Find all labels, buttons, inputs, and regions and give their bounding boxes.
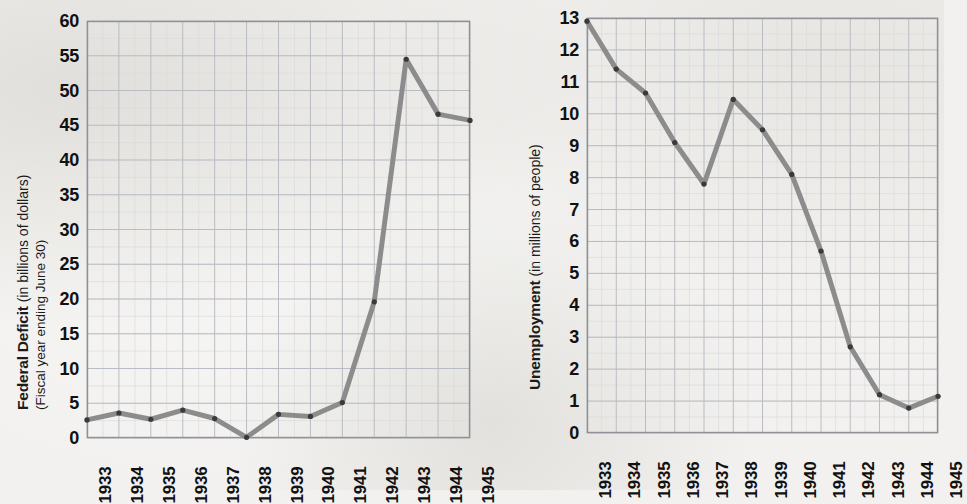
unemployment-xtick-1941: 1941 — [830, 462, 850, 499]
federal-deficit-ytick-10: 10 — [60, 358, 79, 379]
federal-deficit-svg — [87, 21, 470, 438]
unemployment-ytick-2: 2 — [569, 359, 579, 380]
unemployment-x-axis: 1933193419351936193719381939194019411942… — [587, 443, 938, 491]
unemployment-xtick-1934: 1934 — [625, 462, 645, 499]
federal-deficit-ytick-40: 40 — [60, 150, 79, 171]
unemployment-xtick-1942: 1942 — [859, 462, 879, 499]
federal-deficit-y-axis: 051015202530354045505560 — [41, 21, 79, 438]
unemployment-xtick-1940: 1940 — [800, 462, 820, 499]
federal-deficit-xtick-1942: 1942 — [383, 467, 403, 504]
unemployment-xtick-1939: 1939 — [771, 462, 791, 499]
federal-deficit-ytick-5: 5 — [69, 393, 79, 414]
unemployment-ytick-3: 3 — [569, 327, 579, 348]
federal-deficit-ytick-60: 60 — [60, 11, 79, 32]
unemployment-xtick-1933: 1933 — [596, 462, 616, 499]
unemployment-ytick-5: 5 — [569, 263, 579, 284]
unemployment-ytick-6: 6 — [569, 231, 579, 252]
federal-deficit-xtick-1943: 1943 — [415, 467, 435, 504]
federal-deficit-xtick-1944: 1944 — [447, 467, 467, 504]
federal-deficit-plot-area — [87, 21, 470, 438]
unemployment-ytick-1: 1 — [569, 391, 579, 412]
unemployment-ytick-8: 8 — [569, 167, 579, 188]
federal-deficit-xtick-1939: 1939 — [287, 467, 307, 504]
federal-deficit-xtick-1935: 1935 — [159, 467, 179, 504]
unemployment-chart: Unemployment (in millions of people) 012… — [480, 0, 944, 490]
federal-deficit-ytick-50: 50 — [60, 80, 79, 101]
federal-deficit-xtick-1940: 1940 — [319, 467, 339, 504]
federal-deficit-xtick-1937: 1937 — [223, 467, 243, 504]
unemployment-svg — [587, 18, 938, 433]
federal-deficit-ytick-15: 15 — [60, 323, 79, 344]
federal-deficit-ytick-25: 25 — [60, 254, 79, 275]
federal-deficit-ytick-30: 30 — [60, 219, 79, 240]
federal-deficit-ytick-20: 20 — [60, 289, 79, 310]
federal-deficit-xtick-1936: 1936 — [191, 467, 211, 504]
unemployment-xtick-1937: 1937 — [713, 462, 733, 499]
federal-deficit-ytick-45: 45 — [60, 115, 79, 136]
federal-deficit-axis-title-bold: Federal Deficit — [14, 306, 31, 410]
federal-deficit-axis-title-regular: (in billions of dollars) — [15, 175, 31, 307]
unemployment-plot-area — [587, 18, 938, 433]
federal-deficit-ytick-35: 35 — [60, 184, 79, 205]
federal-deficit-ytick-55: 55 — [60, 45, 79, 66]
unemployment-ytick-11: 11 — [561, 71, 579, 92]
unemployment-ytick-0: 0 — [569, 423, 579, 444]
unemployment-y-axis: 012345678910111213 — [541, 18, 579, 433]
unemployment-xtick-1935: 1935 — [654, 462, 674, 499]
federal-deficit-x-axis: 1933193419351936193719381939194019411942… — [87, 448, 470, 496]
federal-deficit-xtick-1933: 1933 — [96, 467, 116, 504]
unemployment-ytick-10: 10 — [560, 103, 579, 124]
unemployment-xtick-1936: 1936 — [683, 462, 703, 499]
federal-deficit-xtick-1938: 1938 — [255, 467, 275, 504]
unemployment-ytick-4: 4 — [569, 295, 579, 316]
unemployment-xtick-1944: 1944 — [917, 462, 937, 499]
unemployment-xtick-1938: 1938 — [742, 462, 762, 499]
federal-deficit-chart: Federal Deficit (in billions of dollars)… — [0, 0, 480, 490]
unemployment-xtick-1945: 1945 — [947, 462, 967, 499]
unemployment-ytick-7: 7 — [569, 199, 579, 220]
federal-deficit-ytick-0: 0 — [69, 428, 79, 449]
federal-deficit-xtick-1934: 1934 — [127, 467, 147, 504]
unemployment-ytick-9: 9 — [569, 135, 579, 156]
federal-deficit-xtick-1941: 1941 — [351, 467, 371, 504]
unemployment-ytick-13: 13 — [560, 8, 579, 29]
unemployment-ytick-12: 12 — [560, 39, 579, 60]
unemployment-xtick-1943: 1943 — [888, 462, 908, 499]
